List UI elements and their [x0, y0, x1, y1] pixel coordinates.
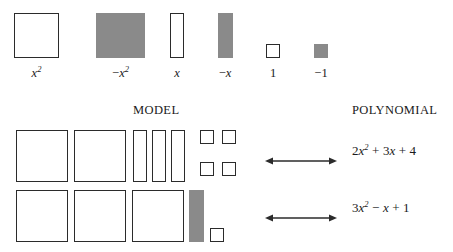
poly-operator: +: [389, 200, 403, 215]
tile-legend: x2 −x2 x −x 1 −1: [0, 0, 453, 92]
model-tile-x: [133, 130, 147, 182]
poly-operator: +: [395, 143, 409, 158]
poly-term: 4: [410, 143, 417, 158]
model-tile-x-squared: [16, 130, 68, 182]
double-headed-arrow-icon: [265, 209, 337, 219]
legend-tile-negative-x-squared: [96, 13, 145, 58]
poly-operator: −: [369, 200, 383, 215]
model-tile-one: [210, 228, 224, 242]
legend-tile-negative-one: [314, 44, 328, 58]
poly-term: 3x: [383, 143, 395, 158]
column-heading-model: MODEL: [133, 103, 179, 118]
poly-term: 3x2: [352, 200, 369, 215]
legend-label-x: x: [163, 66, 191, 80]
double-headed-arrow-icon: [265, 152, 337, 162]
model-tile-negative-x: [189, 190, 204, 242]
model-tile-x-squared: [16, 190, 68, 242]
model-tile-one: [222, 130, 236, 144]
model-tile-x-squared: [74, 130, 126, 182]
legend-label-x-squared: x2: [14, 66, 59, 80]
poly-term: x: [383, 200, 389, 215]
poly-operator: +: [369, 143, 383, 158]
model-tile-x-squared: [74, 190, 126, 242]
model-tile-one: [200, 130, 214, 144]
legend-label-negative-x: −x: [206, 66, 244, 80]
model-tile-one: [200, 162, 214, 176]
polynomial-expression-2: 3x2−x+1: [352, 200, 410, 216]
legend-label-negative-x-squared: −x2: [96, 66, 145, 80]
legend-tile-x: [170, 13, 184, 58]
model-tile-x-squared: [132, 190, 184, 242]
legend-tile-x-squared: [14, 13, 59, 58]
model-tile-one: [222, 162, 236, 176]
polynomial-expression-1: 2x2+3x+4: [352, 143, 416, 159]
legend-label-negative-one: −1: [303, 66, 339, 80]
poly-term: 2x2: [352, 143, 369, 158]
poly-term: 1: [403, 200, 410, 215]
legend-label-one: 1: [259, 66, 287, 80]
model-tile-x: [152, 130, 166, 182]
column-heading-polynomial: POLYNOMIAL: [352, 103, 437, 118]
model-tile-x: [171, 130, 185, 182]
legend-tile-negative-x: [218, 13, 233, 58]
legend-tile-one: [266, 44, 280, 58]
